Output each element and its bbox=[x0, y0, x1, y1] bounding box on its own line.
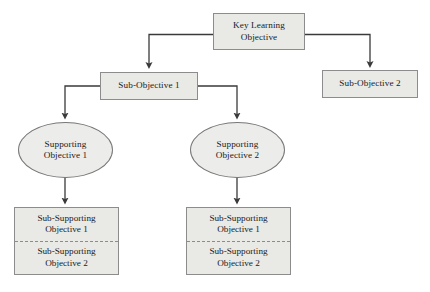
node-supporting-objective-1-line-1: Supporting bbox=[45, 139, 87, 150]
node-sub-supporting-objective-1-left-line-1: Sub-Supporting bbox=[37, 213, 95, 224]
node-key-learning-objective: Key Learning Objective bbox=[213, 13, 305, 50]
connector-sub1-to-supporting1 bbox=[65, 86, 100, 116]
node-sub-supporting-objective-2-right-line-2: Objective 2 bbox=[217, 258, 260, 269]
node-sub-supporting-objective-1-left: Sub-Supporting Objective 1 bbox=[15, 208, 118, 241]
node-sub-supporting-group-right: Sub-Supporting Objective 1 Sub-Supportin… bbox=[186, 207, 291, 275]
node-sub-supporting-objective-2-left-line-1: Sub-Supporting bbox=[37, 246, 95, 257]
connector-klo-to-sub2 bbox=[305, 35, 370, 65]
node-supporting-objective-2: Supporting Objective 2 bbox=[190, 122, 285, 178]
node-supporting-objective-2-line-2: Objective 2 bbox=[216, 150, 260, 161]
node-sub-objective-1-label: Sub-Objective 1 bbox=[118, 80, 179, 91]
node-sub-objective-2-label: Sub-Objective 2 bbox=[339, 78, 400, 89]
node-sub-supporting-objective-1-right-line-2: Objective 1 bbox=[217, 224, 260, 235]
node-sub-supporting-objective-2-right-line-1: Sub-Supporting bbox=[209, 246, 267, 257]
node-sub-objective-1: Sub-Objective 1 bbox=[100, 72, 198, 100]
connector-sub1-to-supporting2 bbox=[198, 86, 237, 116]
node-sub-objective-2: Sub-Objective 2 bbox=[322, 70, 418, 98]
node-supporting-objective-1-line-2: Objective 1 bbox=[44, 150, 88, 161]
node-key-learning-objective-line-2: Objective bbox=[241, 32, 278, 43]
learning-objective-diagram: Key Learning Objective Sub-Objective 1 S… bbox=[0, 0, 430, 292]
node-sub-supporting-objective-1-right: Sub-Supporting Objective 1 bbox=[187, 208, 290, 241]
node-sub-supporting-objective-1-right-line-1: Sub-Supporting bbox=[209, 213, 267, 224]
connector-klo-to-sub1 bbox=[149, 35, 213, 66]
node-supporting-objective-2-line-1: Supporting bbox=[217, 139, 259, 150]
node-key-learning-objective-line-1: Key Learning bbox=[233, 20, 285, 31]
node-sub-supporting-objective-2-left: Sub-Supporting Objective 2 bbox=[15, 241, 118, 275]
node-supporting-objective-1: Supporting Objective 1 bbox=[18, 122, 113, 178]
node-sub-supporting-objective-2-right: Sub-Supporting Objective 2 bbox=[187, 241, 290, 275]
node-sub-supporting-objective-1-left-line-2: Objective 1 bbox=[45, 224, 88, 235]
node-sub-supporting-group-left: Sub-Supporting Objective 1 Sub-Supportin… bbox=[14, 207, 119, 275]
node-sub-supporting-objective-2-left-line-2: Objective 2 bbox=[45, 258, 88, 269]
